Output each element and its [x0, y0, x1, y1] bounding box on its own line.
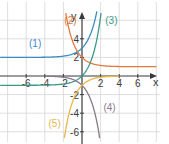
- grid-lines: [0, 2, 160, 142]
- y-tick-label: -6: [70, 127, 79, 138]
- curve-3: [0, 13, 101, 85]
- x-tick-label: 6: [135, 78, 141, 89]
- y-axis-arrow-icon: [79, 12, 85, 19]
- x-tick-label: -4: [40, 78, 49, 89]
- y-tick-label: 4: [73, 34, 79, 45]
- curve-label-5: (5): [49, 118, 61, 129]
- axes: x y: [0, 10, 159, 144]
- curve-label-1: (1): [29, 38, 41, 49]
- y-tick-label: -4: [70, 108, 79, 119]
- x-axis-label: x: [153, 76, 159, 88]
- exponential-functions-chart: x y -6-4-224642-2-4-6 (1)(2)(3)(4)(5): [0, 0, 169, 144]
- curve-label-3: (3): [105, 15, 117, 26]
- x-tick-label: -6: [22, 78, 31, 89]
- x-tick-label: 4: [116, 78, 122, 89]
- curve-label-2: (2): [64, 15, 76, 26]
- curve-label-4: (4): [103, 102, 115, 113]
- x-tick-label: 2: [98, 78, 104, 89]
